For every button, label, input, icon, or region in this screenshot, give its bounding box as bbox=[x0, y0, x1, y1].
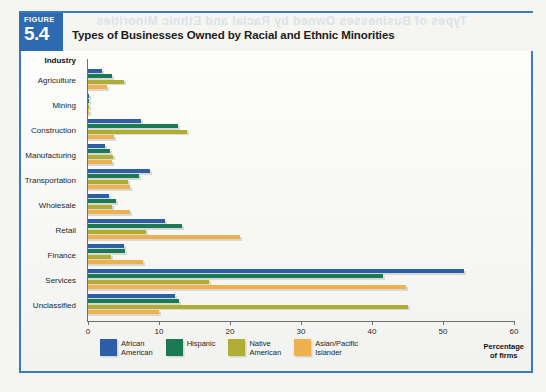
x-tick-label: 30 bbox=[297, 327, 306, 336]
legend-swatch bbox=[294, 339, 311, 356]
bar bbox=[88, 210, 130, 214]
bar bbox=[88, 310, 159, 314]
bar bbox=[88, 235, 240, 239]
x-tick bbox=[372, 321, 373, 325]
x-tick bbox=[443, 321, 444, 325]
bar bbox=[88, 169, 150, 173]
legend-item[interactable]: Asian/Pacific Islander bbox=[294, 339, 358, 357]
figure-badge-number: 5.4 bbox=[24, 24, 49, 43]
bar bbox=[88, 99, 89, 103]
x-axis-title: Percentage of firms bbox=[484, 342, 524, 360]
x-tick-label: 0 bbox=[86, 327, 90, 336]
legend-item[interactable]: African American bbox=[100, 339, 153, 357]
bar-group bbox=[88, 269, 514, 291]
bar bbox=[88, 135, 114, 139]
bar bbox=[88, 249, 125, 253]
figure-page: Types of Businesses Owned by Racial and … bbox=[0, 0, 546, 392]
x-tick-label: 60 bbox=[510, 327, 519, 336]
legend-label: Native American bbox=[249, 339, 281, 357]
bar bbox=[88, 105, 89, 109]
bar bbox=[88, 260, 143, 264]
bar bbox=[88, 80, 124, 84]
legend-swatch bbox=[166, 339, 183, 356]
bar bbox=[88, 224, 182, 228]
plot-area: 0102030405060IndustryAgricultureMiningCo… bbox=[88, 68, 514, 321]
bar-group bbox=[88, 119, 514, 141]
y-axis-label: Wholesale bbox=[39, 201, 76, 210]
y-axis-label: Transportation bbox=[25, 176, 76, 185]
bar bbox=[88, 199, 116, 203]
bar bbox=[88, 274, 383, 278]
bar bbox=[88, 149, 110, 153]
bar-group bbox=[88, 169, 514, 191]
bar bbox=[88, 255, 111, 259]
bar bbox=[88, 94, 89, 98]
bar bbox=[88, 69, 102, 73]
bar bbox=[88, 219, 165, 223]
bar bbox=[88, 205, 112, 209]
y-axis-label: Mining bbox=[52, 101, 76, 110]
bar bbox=[88, 269, 464, 273]
y-axis-header: Industry bbox=[44, 56, 76, 65]
bar bbox=[88, 194, 109, 198]
y-axis-label: Unclassified bbox=[33, 301, 76, 310]
bar-group bbox=[88, 219, 514, 241]
bar bbox=[88, 185, 130, 189]
bar bbox=[88, 124, 178, 128]
x-tick-label: 10 bbox=[155, 327, 164, 336]
x-tick bbox=[514, 321, 515, 325]
header-rule bbox=[19, 11, 533, 13]
x-tick-label: 20 bbox=[226, 327, 235, 336]
legend-item[interactable]: Native American bbox=[228, 339, 281, 357]
x-tick-label: 40 bbox=[368, 327, 377, 336]
x-tick-label: 50 bbox=[439, 327, 448, 336]
figure-title: Types of Businesses Owned by Racial and … bbox=[72, 29, 395, 41]
legend-label: Hispanic bbox=[187, 339, 216, 349]
figure-badge: FIGURE 5.4 bbox=[19, 13, 63, 51]
legend: African AmericanHispanicNative AmericanA… bbox=[100, 339, 358, 357]
bar-group bbox=[88, 194, 514, 216]
bar bbox=[88, 299, 179, 303]
bar bbox=[88, 280, 209, 284]
legend-swatch bbox=[100, 339, 117, 356]
bar bbox=[88, 119, 141, 123]
ghost-reverse-title: Types of Businesses Owned by Racial and … bbox=[96, 14, 467, 28]
bar bbox=[88, 144, 105, 148]
bar bbox=[88, 110, 89, 114]
bar bbox=[88, 130, 187, 134]
y-axis-label: Manufacturing bbox=[25, 151, 76, 160]
bar bbox=[88, 244, 124, 248]
bar-group bbox=[88, 144, 514, 166]
bar-group bbox=[88, 94, 514, 116]
x-tick bbox=[301, 321, 302, 325]
x-tick bbox=[159, 321, 160, 325]
bar bbox=[88, 294, 175, 298]
bar bbox=[88, 155, 113, 159]
legend-swatch bbox=[228, 339, 245, 356]
bar bbox=[88, 305, 408, 309]
bar-group bbox=[88, 244, 514, 266]
x-tick bbox=[230, 321, 231, 325]
legend-label: Asian/Pacific Islander bbox=[315, 339, 358, 357]
bar bbox=[88, 85, 107, 89]
bar bbox=[88, 74, 112, 78]
bar bbox=[88, 160, 112, 164]
chart-frame: 0102030405060IndustryAgricultureMiningCo… bbox=[19, 51, 533, 373]
bar bbox=[88, 180, 128, 184]
legend-label: African American bbox=[121, 339, 153, 357]
y-axis-label: Retail bbox=[56, 226, 76, 235]
bar bbox=[88, 285, 406, 289]
bar bbox=[88, 230, 146, 234]
y-axis-label: Finance bbox=[48, 251, 76, 260]
bar-group bbox=[88, 294, 514, 316]
bar-group bbox=[88, 69, 514, 91]
bar bbox=[88, 174, 139, 178]
y-axis-label: Services bbox=[45, 276, 76, 285]
y-axis-label: Construction bbox=[31, 126, 76, 135]
legend-item[interactable]: Hispanic bbox=[166, 339, 216, 356]
x-tick bbox=[88, 321, 89, 325]
y-axis-label: Agriculture bbox=[38, 76, 76, 85]
